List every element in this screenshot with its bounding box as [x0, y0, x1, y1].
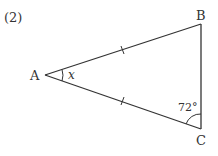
problem-number: (2) [4, 10, 22, 25]
angle-label-72: 72° [178, 101, 198, 114]
vertex-label-b: B [196, 8, 206, 23]
vertex-label-a: A [29, 68, 40, 83]
vertex-label-c: C [196, 133, 206, 148]
angle-arc-a [62, 70, 63, 82]
angle-arc-c [186, 114, 201, 124]
triangle-diagram: (2) A B C x 72° [0, 0, 218, 156]
angle-label-x: x [68, 68, 75, 82]
